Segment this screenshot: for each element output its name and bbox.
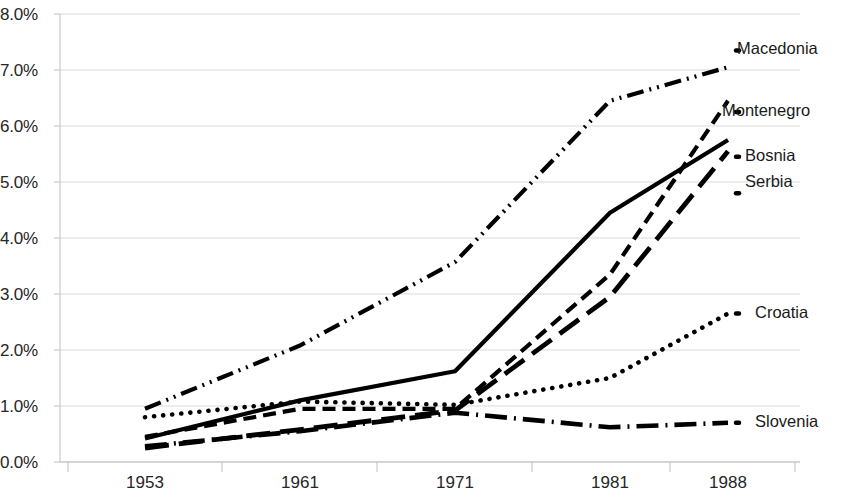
line-chart: 8.0% 7.0% 6.0% 5.0% 4.0% 3.0% 2.0% 1.0% … bbox=[0, 0, 855, 499]
gridlines bbox=[60, 14, 800, 462]
series-label-serbia: Serbia bbox=[745, 172, 793, 191]
series-label-slovenia: Slovenia bbox=[755, 412, 818, 431]
series-line-montenegro bbox=[145, 101, 728, 437]
series-label-macedonia: Macedonia bbox=[737, 39, 818, 58]
series-line-bosnia bbox=[145, 140, 728, 438]
series-lines bbox=[145, 50, 739, 448]
series-line-croatia bbox=[145, 314, 728, 418]
series-label-croatia: Croatia bbox=[755, 303, 808, 322]
series-label-bosnia: Bosnia bbox=[745, 146, 795, 165]
plot-area bbox=[0, 0, 855, 499]
series-label-montenegro: Montenegro bbox=[722, 101, 810, 120]
